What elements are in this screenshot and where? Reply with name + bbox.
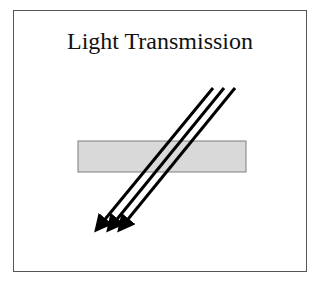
light-transmission-diagram	[0, 0, 318, 282]
transparent-slab	[78, 141, 246, 172]
